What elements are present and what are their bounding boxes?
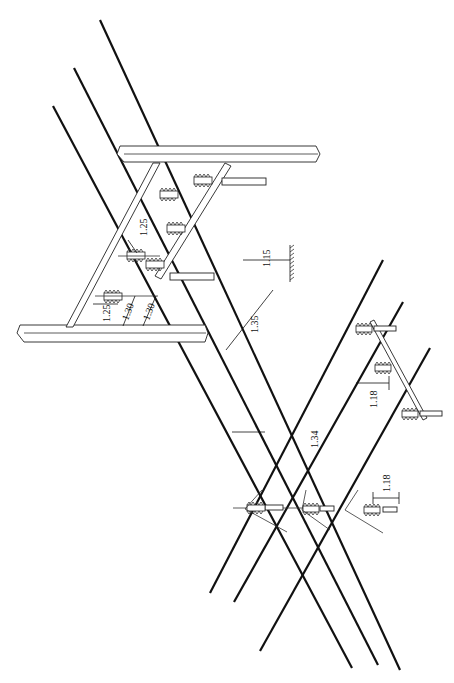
insulator-icon (104, 290, 122, 303)
insulator-icon (160, 188, 178, 201)
lower-insulator-row (233, 490, 397, 533)
upper-conductor-3 (53, 106, 352, 668)
dimension-label: 1.15 (261, 250, 272, 268)
dimension-label: 1.25 (138, 219, 149, 237)
insulator-icon (364, 504, 380, 516)
lower-conductor-2 (234, 302, 403, 602)
dimension-label: 1.18 (381, 475, 392, 493)
upper-conductors (53, 20, 400, 670)
dimension-label: 1.35 (249, 316, 260, 334)
upper-crossarm-structure (17, 146, 320, 342)
dimension-label: 1.34 (309, 431, 320, 449)
dimension-labels: 1.25 1.25 1.30 1.30 1.15 1.35 1.34 1.18 … (101, 219, 392, 493)
insulator-icon (303, 503, 319, 515)
lower-conductor-1 (210, 260, 383, 593)
insulator-icon (146, 258, 164, 271)
insulator-icon (402, 408, 418, 420)
insulator-icon (167, 222, 185, 235)
lower-conductor-3 (260, 348, 430, 651)
dimension-lines (93, 240, 399, 504)
brace-right (155, 163, 231, 279)
insulator-icon (356, 323, 372, 335)
pin-stub-1 (222, 178, 266, 185)
dimension-label: 1.30 (141, 301, 157, 321)
pin-stub-4 (420, 411, 442, 416)
dimension-label: 1.25 (101, 305, 112, 323)
insulator-icon (194, 174, 212, 187)
dimension-label: 1.18 (368, 391, 379, 409)
insulator-icon (375, 362, 391, 374)
lower-conductors (210, 260, 430, 651)
dimension-label: 1.30 (120, 301, 136, 321)
pin-stub-3 (374, 326, 396, 331)
pin-stub-2 (170, 273, 214, 280)
crossarm-bottom (17, 325, 208, 342)
line-crossing-diagram: 1.25 1.25 1.30 1.30 1.15 1.35 1.34 1.18 … (0, 0, 454, 683)
ground-symbol-icon (290, 245, 294, 282)
